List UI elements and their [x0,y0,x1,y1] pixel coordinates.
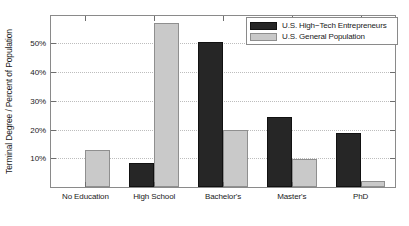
gridline [51,72,395,73]
figure: Terminal Degree / Percent of Population … [0,0,409,226]
legend-swatch-icon [250,33,277,41]
chart-legend: U.S. High−Tech Entrepreneurs U.S. Genera… [246,17,398,45]
gridline [51,101,395,102]
legend-swatch-icon [250,22,277,30]
x-axis-tick-label: PhD [353,192,368,201]
x-axis-tick-label: Master's [277,192,306,201]
bar [292,159,317,187]
y-axis-tick-label: 40% [20,68,46,77]
bar [198,42,223,187]
y-axis-tick [51,43,56,44]
y-axis-tick-label: 10% [20,154,46,163]
x-axis-tick-label: No Education [62,192,109,201]
y-axis-tick [51,158,56,159]
y-axis-tick [51,130,56,131]
x-axis-tick [223,182,224,187]
bar [267,117,292,187]
x-axis-tick-label: High School [133,192,175,201]
y-axis-tick-label: 30% [20,96,46,105]
y-axis-tick [390,130,395,131]
x-axis-tick [154,16,155,21]
x-axis-tick [223,16,224,21]
bar [223,130,248,187]
x-axis-tick-label: Bachelor's [205,192,241,201]
chart-screenshot: Terminal Degree / Percent of Population … [0,0,409,226]
x-axis-tick [361,182,362,187]
x-axis-tick [292,182,293,187]
legend-item: U.S. High−Tech Entrepreneurs [250,20,394,31]
y-axis-tick-label: 50% [20,39,46,48]
y-axis-tick [390,101,395,102]
bar [129,163,154,187]
x-axis-tick [85,182,86,187]
legend-item-label: U.S. General Population [282,32,365,41]
bar [336,133,361,187]
y-axis-title: Terminal Degree / Percent of Population [2,15,16,188]
bar [154,23,179,187]
legend-item: U.S. General Population [250,31,394,42]
bar [85,150,110,187]
x-axis-tick [154,182,155,187]
bar [361,181,386,187]
y-axis-tick [390,158,395,159]
legend-item-label: U.S. High−Tech Entrepreneurs [282,21,387,30]
y-axis-tick [51,101,56,102]
y-axis-tick [390,72,395,73]
y-axis-tick [51,72,56,73]
y-axis-tick-label: 20% [20,125,46,134]
x-axis-tick [85,16,86,21]
